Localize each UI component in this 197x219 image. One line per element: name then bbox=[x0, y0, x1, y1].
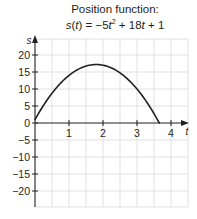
axes bbox=[32, 35, 189, 207]
y-tick-label: −15 bbox=[12, 168, 30, 180]
y-tick-label: −5 bbox=[18, 134, 30, 146]
x-tick-label: 3 bbox=[134, 127, 140, 139]
tick-labels: 123420151050−5−10−15−20ts bbox=[12, 35, 189, 197]
curve-layer bbox=[35, 65, 159, 123]
y-tick-label: 0 bbox=[24, 117, 30, 129]
x-tick-label: 4 bbox=[168, 127, 174, 139]
y-tick-label: 10 bbox=[18, 83, 30, 95]
position-curve bbox=[35, 65, 159, 123]
x-axis-label: t bbox=[186, 126, 190, 137]
y-tick-label: −10 bbox=[12, 151, 30, 163]
y-axis-label: s bbox=[27, 35, 32, 46]
x-tick-label: 2 bbox=[100, 127, 106, 139]
position-function-chart: 123420151050−5−10−15−20ts bbox=[0, 0, 197, 219]
y-tick-label: 5 bbox=[24, 100, 30, 112]
x-tick-label: 1 bbox=[66, 127, 72, 139]
y-tick-label: −20 bbox=[12, 185, 30, 197]
y-tick-label: 20 bbox=[18, 49, 30, 61]
y-tick-label: 15 bbox=[18, 66, 30, 78]
